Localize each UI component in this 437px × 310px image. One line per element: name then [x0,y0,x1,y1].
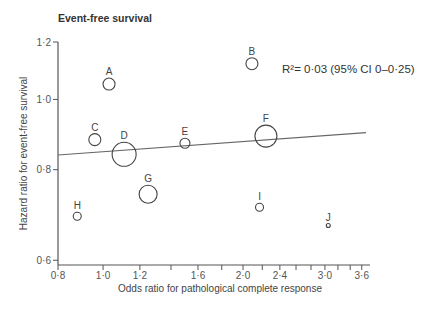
data-point-h [73,212,81,220]
x-tick-label: 2·0 [236,270,251,281]
y-tick-label: 0·6 [37,255,52,266]
point-label-b: B [249,46,256,57]
regression-line [58,133,366,155]
x-tick-label: 1·2 [133,270,148,281]
data-point-c [89,134,101,146]
x-tick-label: 3·6 [355,270,370,281]
data-point-b [246,58,258,70]
data-point-f [255,125,277,147]
data-point-d [112,142,136,166]
x-tick-label: 1·0 [96,270,111,281]
data-points: ABCDEFGHIJ [73,46,331,228]
y-tick-label: 0·8 [37,164,52,175]
scatter-plot: 0·60·81·01·20·81·01·21·62·02·43·03·6 ABC… [0,0,437,310]
y-tick-label: 1·0 [37,94,52,105]
data-point-a [103,78,115,90]
data-point-g [139,185,157,203]
axes: 0·60·81·01·20·81·01·21·62·02·43·03·6 [37,37,370,282]
x-tick-label: 3·0 [318,270,333,281]
y-tick-label: 1·2 [37,37,52,48]
x-tick-label: 0·8 [51,270,66,281]
point-label-j: J [326,212,331,223]
x-tick-label: 1·6 [191,270,206,281]
point-label-g: G [144,173,152,184]
point-label-f: F [263,113,269,124]
point-label-e: E [182,126,189,137]
point-label-h: H [74,200,81,211]
data-point-j [326,224,330,228]
point-label-a: A [106,66,113,77]
point-label-i: I [258,191,261,202]
data-point-i [256,203,264,211]
point-label-d: D [121,130,128,141]
regression-line [58,133,366,155]
data-point-e [180,138,190,148]
point-label-c: C [91,122,98,133]
x-tick-label: 2·4 [273,270,288,281]
